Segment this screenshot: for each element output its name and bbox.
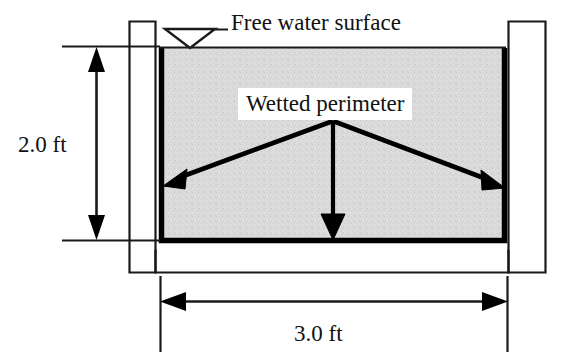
width-arrow-right (482, 292, 508, 311)
channel-floor-outline (156, 250, 509, 273)
depth-arrow-down (88, 215, 105, 240)
water-surface-triangle-icon (165, 29, 215, 48)
wetted-perimeter-label: Wetted perimeter (238, 88, 412, 120)
right-wall-outline (509, 22, 546, 273)
channel-cross-section-diagram: Free water surface Wetted perimeter 2.0 … (0, 0, 564, 363)
width-arrow-left (160, 292, 186, 311)
free-water-surface-label: Free water surface (231, 11, 401, 34)
diagram-canvas (0, 0, 564, 363)
width-dimension-label: 3.0 ft (294, 322, 343, 345)
depth-dimension-group (62, 47, 160, 241)
left-wall-outline (130, 22, 156, 273)
depth-arrow-up (88, 47, 105, 72)
depth-dimension-label: 2.0 ft (18, 133, 67, 156)
